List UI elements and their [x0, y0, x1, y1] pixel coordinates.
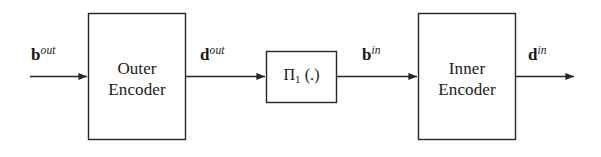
encoder-block-diagram: Outer Encoder Π1 (.) Inner Encoder bout …	[0, 0, 601, 157]
signal-label-b-out: bout	[31, 44, 56, 65]
signal-superscript-b-in: in	[371, 44, 380, 56]
signal-superscript-b-out: out	[40, 44, 55, 56]
signal-label-d-in: din	[528, 44, 547, 65]
signal-superscript-d-in: in	[537, 44, 546, 56]
interleaver-label: Π1 (.)	[266, 65, 337, 89]
interleaver-argument: (.)	[301, 66, 320, 83]
outer-encoder-label: Outer Encoder	[88, 58, 186, 100]
interleaver-pi-symbol: Π	[283, 66, 295, 83]
signal-superscript-d-out: out	[209, 44, 224, 56]
signal-label-b-in: bin	[362, 44, 381, 65]
inner-encoder-label: Inner Encoder	[418, 58, 516, 100]
signal-label-d-out: dout	[200, 44, 225, 65]
